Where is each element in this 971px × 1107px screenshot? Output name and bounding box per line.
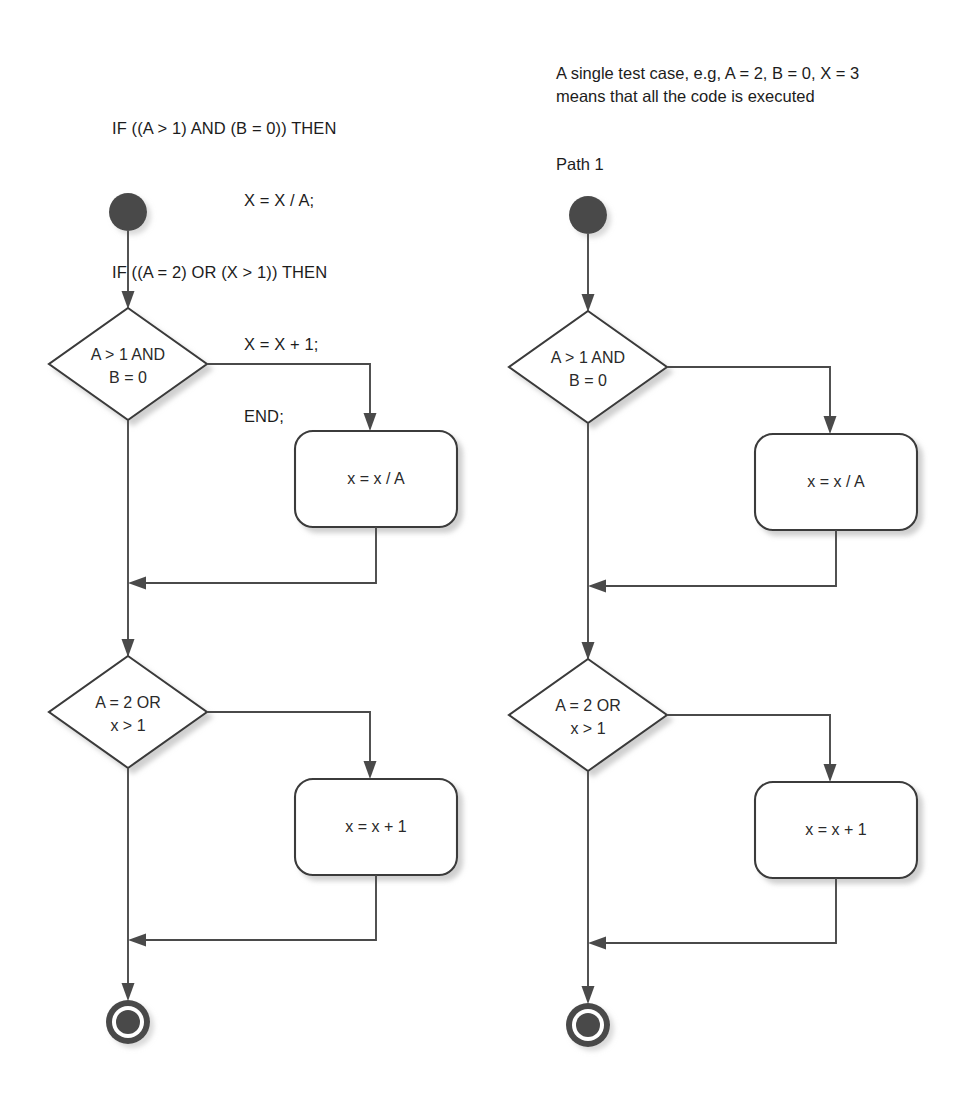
connector-process1-merge-left: [128, 527, 376, 590]
code-line-2: X = X / A;: [112, 188, 442, 212]
connector-decision2-to-process2-left: [207, 712, 377, 779]
decision-1-label-line2-right: B = 0: [569, 372, 607, 389]
connector-process1-merge-right: [588, 530, 836, 593]
flowchart-page: IF ((A > 1) AND (B = 0)) THEN X = X / A;…: [0, 0, 971, 1107]
decision-2-label-line1-left: A = 2 OR: [95, 694, 160, 711]
end-node-right: [566, 1003, 610, 1047]
test-case-note: A single test case, e.g, A = 2, B = 0, X…: [556, 62, 956, 108]
decision-node-1-right: [509, 311, 667, 423]
decision-2-label-line2-right: x > 1: [570, 720, 605, 737]
code-snippet: IF ((A > 1) AND (B = 0)) THEN X = X / A;…: [112, 68, 442, 476]
decision-2-label-line1-right: A = 2 OR: [555, 697, 620, 714]
decision-node-2-left: [49, 656, 207, 768]
flowchart-right: A > 1 AND B = 0 x = x / A: [509, 196, 917, 1047]
connector-decision2-trunk-left: [122, 768, 135, 1001]
connector-decision2-to-process2-right: [667, 715, 837, 782]
code-line-1: IF ((A > 1) AND (B = 0)) THEN: [112, 116, 442, 140]
process-node-2-right: [755, 782, 917, 878]
start-node-right: [569, 196, 607, 234]
code-line-5: END;: [112, 404, 442, 428]
connector-to-decision2-right: [582, 642, 595, 660]
connector-decision2-trunk-right: [582, 771, 595, 1004]
connector-process2-merge-left: [128, 875, 376, 947]
connector-process2-merge-right: [588, 878, 836, 950]
decision-1-label-line1-right: A > 1 AND: [551, 349, 625, 366]
process-node-1-right: [755, 434, 917, 530]
decision-node-2-right: [509, 659, 667, 771]
code-line-4: X = X + 1;: [112, 332, 442, 356]
process-1-label-right: x = x / A: [807, 473, 865, 490]
connector-start-to-decision1-right: [582, 234, 595, 312]
end-node-left: [106, 1000, 150, 1044]
connector-to-decision2-left: [122, 639, 135, 657]
process-2-label-right: x = x + 1: [805, 821, 866, 838]
process-2-label-left: x = x + 1: [345, 818, 406, 835]
decision-2-label-line2-left: x > 1: [110, 717, 145, 734]
path-label: Path 1: [556, 155, 604, 174]
note-line-2: means that all the code is executed: [556, 85, 956, 108]
process-node-2-left: [295, 779, 457, 875]
code-line-3: IF ((A = 2) OR (X > 1)) THEN: [112, 260, 442, 284]
connector-decision1-to-process1-right: [667, 367, 837, 434]
note-line-1: A single test case, e.g, A = 2, B = 0, X…: [556, 62, 956, 85]
